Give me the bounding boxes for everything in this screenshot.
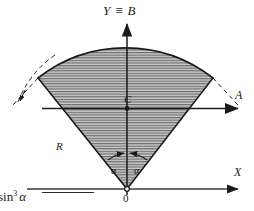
label-angle-alpha-right: α [134, 166, 139, 176]
label-radius-r: R [56, 141, 63, 152]
sector-region [38, 48, 213, 189]
figure-canvas: Y ≡ B A X C R α α 0 sin3α [0, 0, 254, 211]
formula-fraction-bar [42, 192, 94, 193]
formula-exponent: 3 [13, 189, 17, 198]
label-y-axis: Y ≡ B [103, 4, 136, 17]
origin-point [125, 187, 130, 192]
centroid-point [125, 106, 130, 111]
label-angle-alpha-left: α [111, 166, 116, 176]
formula-fragment: sin3α [0, 190, 26, 203]
label-origin: 0 [123, 193, 129, 204]
sector-shape [38, 48, 213, 189]
formula-base: sin [0, 189, 13, 204]
sector-diagram [0, 0, 254, 211]
formula-variable: α [19, 189, 26, 204]
dashed-left-extension [13, 78, 38, 105]
label-x-axis: X [234, 166, 241, 178]
label-centroid-c: C [124, 94, 131, 105]
label-a-axis: A [235, 89, 242, 101]
